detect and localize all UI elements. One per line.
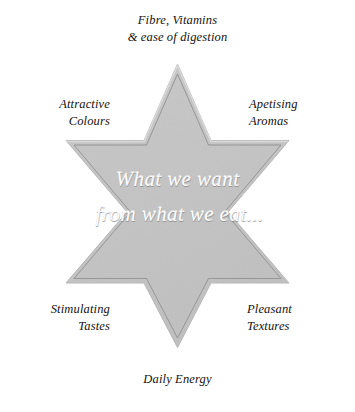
- label-lower-right-pleasant-textures: Pleasant Textures: [247, 301, 349, 334]
- label-lower-right-line-1: Pleasant: [247, 301, 349, 318]
- diagram-canvas: What we want from what we eat... Fibre, …: [0, 0, 355, 412]
- label-upper-left-attractive-colours: Attractive Colours: [14, 96, 110, 129]
- label-upper-right-apetising-aromas: Apetising Aromas: [249, 96, 345, 129]
- label-upper-right-line-1: Apetising: [249, 96, 345, 113]
- label-lower-right-line-2: Textures: [247, 318, 349, 335]
- label-top-fibre-vitamins: Fibre, Vitamins & ease of digestion: [0, 12, 355, 45]
- label-lower-left-line-1: Stimulating: [8, 301, 110, 318]
- label-lower-left-line-2: Tastes: [8, 318, 110, 335]
- label-bottom-daily-energy: Daily Energy: [0, 371, 355, 388]
- label-upper-left-line-2: Colours: [14, 113, 110, 130]
- label-upper-left-line-1: Attractive: [14, 96, 110, 113]
- label-top-line-1: Fibre, Vitamins: [0, 12, 355, 29]
- six-pointed-star-graphic: [0, 0, 355, 412]
- label-lower-left-stimulating-tastes: Stimulating Tastes: [8, 301, 110, 334]
- label-top-line-2: & ease of digestion: [0, 29, 355, 46]
- label-upper-right-line-2: Aromas: [249, 113, 345, 130]
- label-bottom-line-1: Daily Energy: [0, 371, 355, 388]
